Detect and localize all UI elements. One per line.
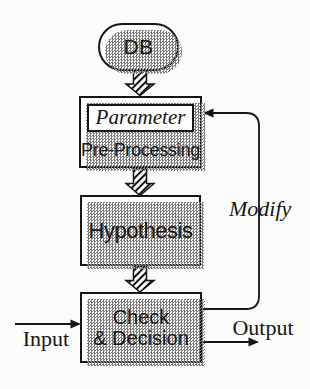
node-parameter: Parameter bbox=[87, 104, 195, 132]
node-hypothesis: Hypothesis bbox=[80, 195, 201, 266]
check-label-line2: & Decision bbox=[93, 328, 189, 349]
hatched-arrow-hypothesis-to-check-icon bbox=[126, 267, 154, 293]
hypothesis-label: Hypothesis bbox=[89, 218, 193, 244]
hatched-arrow-preprocessing-to-hypothesis-icon bbox=[126, 169, 154, 196]
preprocessing-label: Pre-Processing bbox=[81, 140, 200, 161]
check-label-line1: Check bbox=[113, 307, 170, 328]
db-label: DB bbox=[123, 35, 153, 59]
modify-label: Modify bbox=[229, 196, 291, 222]
output-label: Output bbox=[227, 315, 299, 341]
node-check-decision: Check & Decision bbox=[80, 292, 202, 363]
input-label: Input bbox=[14, 326, 78, 352]
node-preprocessing: Parameter Pre-Processing bbox=[79, 96, 202, 168]
diagram-canvas: DB Parameter Pre-Processing Hypothesis C… bbox=[0, 0, 310, 389]
node-db: DB bbox=[98, 23, 179, 71]
parameter-label: Parameter bbox=[96, 105, 186, 129]
